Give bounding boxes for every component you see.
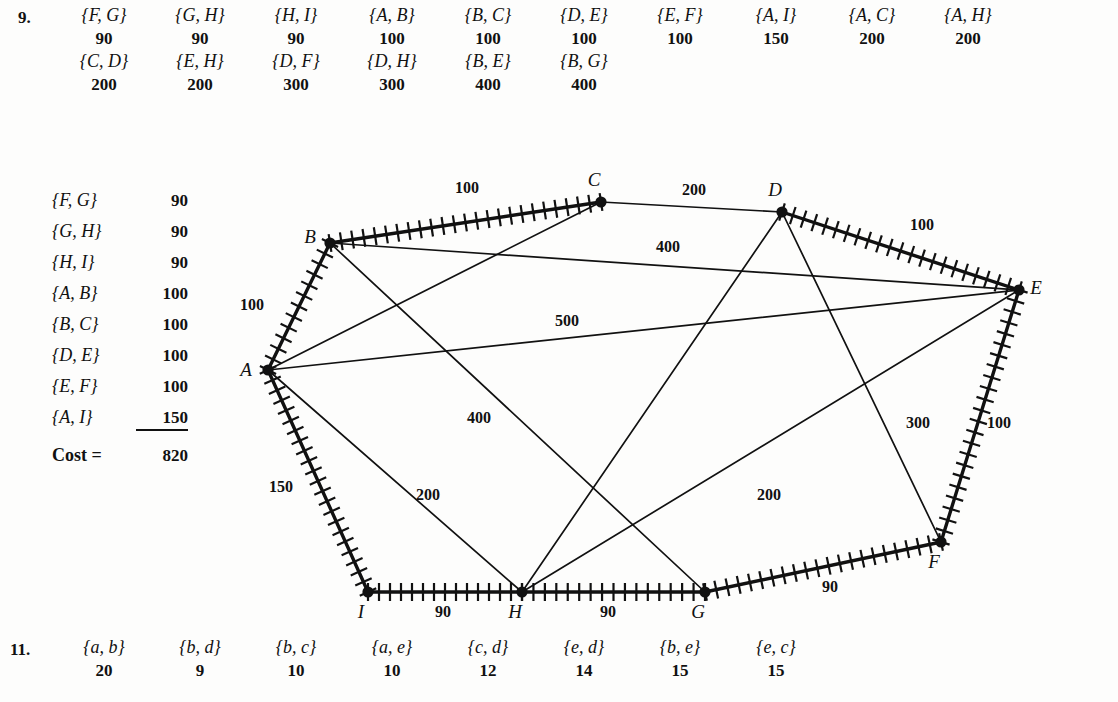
edge-weight: 150	[763, 27, 789, 52]
graph-node-I	[362, 586, 373, 597]
problem-11-edge-row: {a, b}20{b, d}9{b, c}10{a, e}10{c, d}12{…	[56, 636, 824, 683]
problem-11-edge-cell: {e, d}14	[536, 636, 632, 683]
edge-pair: {B, E}	[465, 50, 510, 73]
graph-node-H	[516, 586, 527, 597]
graph-node-A	[262, 364, 273, 375]
problem-11-edge-cell: {c, d}12	[440, 636, 536, 683]
graph-node-label-G: G	[691, 601, 705, 622]
edge-weight-label-CD: 200	[682, 181, 706, 198]
edge-weight: 200	[859, 27, 885, 52]
edge-weight-label-GH: 90	[600, 603, 616, 620]
edge-weight-label-IA: 150	[269, 478, 293, 495]
problem-9-edge-row-1: {F, G}90{G, H}90{H, I}90{A, B}100{B, C}1…	[56, 4, 1016, 51]
edge-weight: 9	[196, 659, 205, 684]
problem-9-edge-cell: {A, C}200	[824, 4, 920, 51]
problem-11-edge-cell: {a, e}10	[344, 636, 440, 683]
edge-pair: {A, I}	[756, 4, 796, 27]
edge-pair: {c, d}	[468, 636, 508, 659]
problem-9-number: 9.	[18, 8, 31, 28]
edge-weight: 20	[96, 659, 113, 684]
graph-edge-HI	[368, 583, 522, 601]
edge-weight: 15	[672, 659, 689, 684]
edge-weight: 90	[288, 27, 305, 52]
graph-node-label-C: C	[588, 169, 601, 190]
graph-node-label-E: E	[1029, 277, 1042, 298]
edge-pair: {D, H}	[367, 50, 416, 73]
problem-11-edge-cell: {b, c}10	[248, 636, 344, 683]
graph-edge-DH	[522, 212, 782, 592]
edge-pair: {b, c}	[276, 636, 316, 659]
graph-node-D	[776, 206, 787, 217]
edge-pair: {B, G}	[560, 50, 607, 73]
problem-11-edge-cell: {a, b}20	[56, 636, 152, 683]
graph-edge-AH	[268, 370, 522, 592]
graph-node-G	[699, 586, 710, 597]
graph-node-label-F: F	[927, 551, 940, 572]
problem-9-edge-cell: {D, E}100	[536, 4, 632, 51]
problem-9-edge-cell: {B, E}400	[440, 50, 536, 97]
edge-pair: {E, F}	[657, 4, 702, 27]
graph-edge-GH	[522, 583, 705, 601]
edge-weight: 400	[475, 73, 501, 98]
edge-weight-label-BG: 400	[467, 409, 491, 426]
problem-9-edge-cell: {A, I}150	[728, 4, 824, 51]
problem-9-edge-cell: {C, D}200	[56, 50, 152, 97]
edge-weight: 200	[91, 73, 117, 98]
problem-9-edge-cell: {E, H}200	[152, 50, 248, 97]
graph-edge-DE	[779, 203, 1022, 298]
problem-9-edge-cell: {D, F}300	[248, 50, 344, 97]
edge-pair: {A, C}	[849, 4, 895, 27]
graph-node-F	[935, 536, 946, 547]
graph-node-B	[324, 237, 335, 248]
graph-edge-EF	[932, 287, 1027, 544]
edge-pair: {e, d}	[564, 636, 604, 659]
graph-svg: ABCDEFGHI 100100200100100909090150400500…	[0, 160, 1118, 630]
edge-weight: 100	[571, 27, 597, 52]
problem-9-edge-cell: {A, H}200	[920, 4, 1016, 51]
edge-weight: 100	[667, 27, 693, 52]
edge-weight-label-DE: 100	[910, 216, 934, 233]
edge-weight: 10	[384, 659, 401, 684]
edge-pair: {H, I}	[275, 4, 317, 27]
graph-node-C	[595, 196, 606, 207]
graph-node-label-B: B	[304, 226, 316, 247]
problem-9-edge-cell: {E, F}100	[632, 4, 728, 51]
edge-pair: {a, b}	[83, 636, 124, 659]
edge-weight-label-DF: 300	[906, 414, 930, 431]
edge-weight-label-FG: 90	[822, 578, 838, 595]
edge-pair: {A, H}	[944, 4, 991, 27]
edge-weight: 90	[192, 27, 209, 52]
edge-weight-label-EF: 100	[987, 414, 1011, 431]
problem-9-edge-cell: {B, C}100	[440, 4, 536, 51]
edge-pair: {b, d}	[179, 636, 220, 659]
edge-weight-label-AE: 500	[555, 312, 579, 329]
edge-pair: {D, E}	[560, 4, 607, 27]
edge-weight: 300	[379, 73, 405, 98]
problem-11-edge-cell: {b, d}9	[152, 636, 248, 683]
edge-pair: {G, H}	[175, 4, 224, 27]
problem-9-edge-cell: {B, G}400	[536, 50, 632, 97]
edge-weight: 14	[576, 659, 593, 684]
edge-pair: {A, B}	[369, 4, 414, 27]
problem-9-edge-cell: {D, H}300	[344, 50, 440, 97]
edge-weight-label-AB: 100	[240, 296, 264, 313]
edge-pair: {C, D}	[80, 50, 128, 73]
edge-weight: 15	[768, 659, 785, 684]
edge-weight-label-HI: 90	[435, 603, 451, 620]
edge-pair: {F, G}	[81, 4, 126, 27]
edge-pair: {e, c}	[756, 636, 795, 659]
graph-node-label-H: H	[507, 601, 523, 622]
edge-weight-label-AH: 200	[416, 486, 440, 503]
graph-edge-BG	[330, 243, 705, 592]
problem-11-edge-cell: {b, e}15	[632, 636, 728, 683]
problem-9-edge-cell: {F, G}90	[56, 4, 152, 51]
graph-node-label-D: D	[767, 179, 782, 200]
edge-weight: 90	[96, 27, 113, 52]
edge-weight: 300	[283, 73, 309, 98]
problem-9-edge-cell: {H, I}90	[248, 4, 344, 51]
graph-node-label-A: A	[238, 359, 252, 380]
edge-weight: 200	[187, 73, 213, 98]
edge-weight-label-BC: 100	[455, 179, 479, 196]
edge-pair: {E, H}	[176, 50, 223, 73]
problem-11-edge-cell: {e, c}15	[728, 636, 824, 683]
